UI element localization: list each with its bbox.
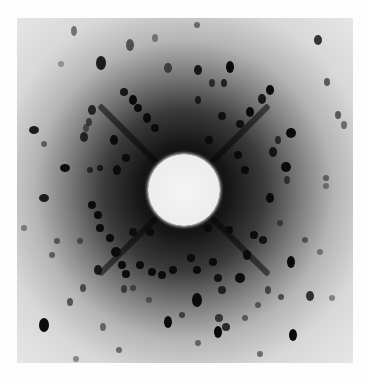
diffraction-spot [39,194,49,202]
diffraction-spot [323,175,329,181]
diffraction-spot [209,79,215,87]
diffraction-spot [71,26,77,36]
diffraction-spot [226,61,234,73]
diffraction-spot [187,254,195,262]
diffraction-spot [94,211,102,219]
diffraction-spot [266,193,274,203]
diffraction-spot [60,164,70,172]
diffraction-spot [118,261,126,269]
diffraction-spot [58,61,64,67]
diffraction-spot [110,135,118,145]
diffraction-spot [83,124,89,132]
diffraction-spot [179,312,185,318]
diffraction-spot [77,238,83,244]
diffraction-spot [67,298,73,306]
diffraction-spot [146,297,152,303]
diffraction-spot [192,293,202,307]
diffraction-spot [49,252,55,258]
diffraction-spot [275,136,281,144]
diffraction-spot [214,274,222,282]
diffraction-spot [151,124,159,132]
diffraction-spot [111,247,121,257]
diffraction-spot [130,285,136,291]
diffraction-spot [41,141,47,147]
diffraction-spot [136,261,144,269]
diffraction-spot [134,104,142,112]
diffraction-spot [169,266,177,274]
diffraction-spot [234,151,242,159]
diffraction-spot [205,136,213,144]
diffraction-spot [96,224,104,232]
diffraction-spot [281,162,291,172]
diffraction-spot [269,147,277,157]
diffraction-spot [129,228,137,236]
diffraction-spot [80,284,86,292]
diffraction-spot [215,314,223,322]
diffraction-spot [73,356,79,362]
diffraction-spot [324,78,330,86]
diffraction-spot [323,183,329,189]
diffraction-spot [314,35,322,45]
diffraction-spot [195,96,201,104]
diffraction-spot [143,113,151,123]
diffraction-spot [21,225,27,231]
diffraction-spot [194,65,202,75]
diffraction-spot [39,318,49,332]
diffraction-spot [87,167,93,173]
diffraction-spot [100,323,106,331]
diffraction-spot [329,295,335,301]
diffraction-spot [242,315,248,321]
diffraction-spot [306,291,314,301]
diffraction-spot [243,250,251,260]
diffraction-spot [341,121,347,129]
diffraction-spot [302,237,308,243]
diffraction-spot [277,220,283,226]
diffraction-spot [122,270,130,278]
beam-stop-disc [148,154,220,226]
diffraction-spot [120,88,128,96]
diffraction-spot [88,201,96,209]
diffraction-spot [88,105,96,115]
diffraction-spot [287,256,295,268]
diffraction-spot [195,340,201,346]
diffraction-spot [116,347,122,353]
diffraction-spot [96,56,106,70]
diffraction-spot [164,63,172,73]
diffraction-spot [146,228,154,236]
diffraction-spot [29,126,39,134]
diffraction-spot [225,226,233,234]
diffraction-spot [246,107,254,117]
diffraction-spot [289,329,297,341]
diffraction-spot [106,234,114,242]
diffraction-spot [266,85,274,95]
diffraction-spot [204,224,212,232]
diffraction-spot [278,294,284,300]
diffraction-spot [113,165,121,175]
diffraction-spot [335,111,341,119]
diffraction-spot [221,79,227,87]
diffraction-spot [97,165,103,171]
diffraction-spot [80,132,88,142]
diffraction-spot [194,22,200,28]
diffraction-spot [265,286,271,294]
diffraction-spot [241,166,249,174]
diffraction-spot [126,39,134,51]
diffraction-spot [164,316,172,328]
diffraction-spot [193,266,201,274]
diffraction-spot [317,249,323,255]
diffraction-spot [259,236,267,244]
diffraction-spot [122,154,130,162]
diffraction-spot [284,176,290,184]
diffraction-spot [255,302,261,308]
diffraction-spot [222,323,230,331]
diffraction-spot [214,326,222,338]
diffraction-spot [258,94,266,104]
diffraction-spot [94,265,102,275]
diffraction-spot [148,268,156,276]
diffraction-spot [152,34,158,42]
diffraction-spot [218,112,226,120]
diffraction-spot [236,120,244,128]
diffraction-spot [250,231,258,239]
diffraction-spot [235,273,245,283]
diffraction-spot [218,286,226,294]
